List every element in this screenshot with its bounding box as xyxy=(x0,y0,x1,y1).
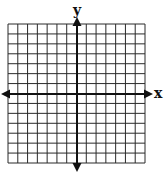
y-axis-up-arrow-icon xyxy=(73,17,82,26)
x-axis-right-arrow-icon xyxy=(144,90,153,99)
y-axis-label: y xyxy=(73,3,81,17)
x-axis-left-arrow-icon xyxy=(1,90,10,99)
coordinate-plane xyxy=(0,0,166,175)
y-axis-down-arrow-icon xyxy=(73,163,82,172)
x-axis-label: x xyxy=(154,86,162,100)
